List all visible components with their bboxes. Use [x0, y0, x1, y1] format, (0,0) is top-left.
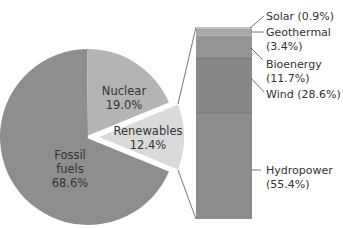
stacked-bar: [196, 27, 252, 219]
nuclear-value: 19.0%: [106, 98, 143, 112]
hydropower-value: (55.4%): [266, 178, 310, 191]
hydropower-label: Hydropower: [266, 164, 333, 177]
geothermal-value: (3.4%): [266, 40, 303, 53]
energy-mix-chart: Nuclear 19.0% Renewables 12.4% Fossil fu…: [0, 0, 343, 228]
pie-chart: Nuclear 19.0% Renewables 12.4% Fossil fu…: [0, 49, 185, 225]
nuclear-label: Nuclear: [102, 84, 147, 98]
bar-labels: Solar (0.9%) Geothermal (3.4%) Bioenergy…: [266, 10, 341, 191]
renewables-label: Renewables: [114, 124, 183, 138]
fossil-label-2: fuels: [56, 162, 84, 176]
bar-segment-wind: [196, 58, 252, 113]
leader-lines: [250, 16, 264, 170]
renewables-value: 12.4%: [130, 138, 167, 152]
wind-label: Wind (28.6%): [266, 88, 341, 101]
solar-label: Solar (0.9%): [266, 10, 334, 23]
fossil-value: 68.6%: [52, 176, 89, 190]
bar-segment-hydropower: [196, 113, 252, 219]
connector-bottom: [178, 170, 196, 219]
bar-segment-geothermal: [196, 29, 252, 36]
bioenergy-label: Bioenergy: [266, 58, 322, 71]
bar-segment-solar: [196, 27, 252, 29]
connector-top: [178, 27, 196, 104]
bioenergy-value: (11.7%): [266, 72, 310, 85]
fossil-label: Fossil: [54, 148, 86, 162]
geothermal-label: Geothermal: [266, 26, 331, 39]
bar-segment-bioenergy: [196, 36, 252, 59]
